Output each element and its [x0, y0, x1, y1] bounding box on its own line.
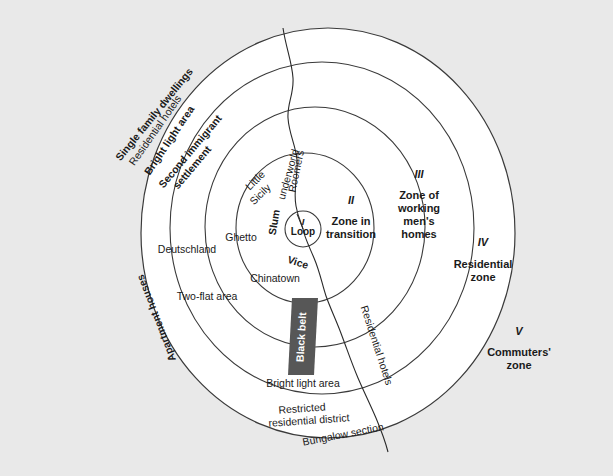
- zone-4-name-line1: Residential: [448, 258, 518, 271]
- zone-3-roman: III: [404, 168, 434, 181]
- zone-5-name-line1: Commuters': [482, 346, 556, 359]
- label-bright-light-area-inner: Bright light area: [255, 377, 351, 389]
- zone-3-name-line3: men's: [387, 215, 451, 228]
- label-deutschland: Deutschland: [143, 243, 231, 255]
- zone-4-roman: IV: [468, 236, 498, 249]
- zone-3-name-line4: homes: [387, 228, 451, 241]
- zone-3-name-line1: Zone of: [387, 189, 451, 202]
- zone-4-name-line2: zone: [448, 271, 518, 284]
- zone-5-name-line2: zone: [482, 359, 556, 372]
- zone-2-name-line1: Zone in: [318, 215, 384, 228]
- diagram-stage: I Loop Little Sicily Roomers underworld …: [0, 0, 613, 476]
- zone-2-roman: II: [336, 194, 366, 207]
- label-ghetto: Ghetto: [219, 231, 263, 243]
- zone-5-roman: V: [504, 325, 534, 338]
- label-two-flat-area: Two-flat area: [163, 290, 251, 302]
- zone-3-name-line2: working: [387, 202, 451, 215]
- label-chinatown: Chinatown: [240, 272, 310, 284]
- zone-2-name-line2: transition: [318, 228, 384, 241]
- loop-label: Loop: [286, 226, 320, 238]
